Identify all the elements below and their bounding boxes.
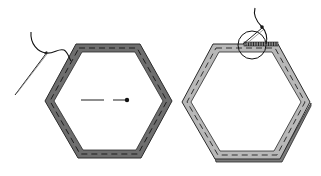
diagram-canvas	[0, 0, 321, 176]
thread	[31, 32, 71, 61]
left-hexagon	[45, 44, 172, 158]
right-hexagon	[182, 44, 311, 162]
right-needle-icon	[243, 8, 267, 45]
